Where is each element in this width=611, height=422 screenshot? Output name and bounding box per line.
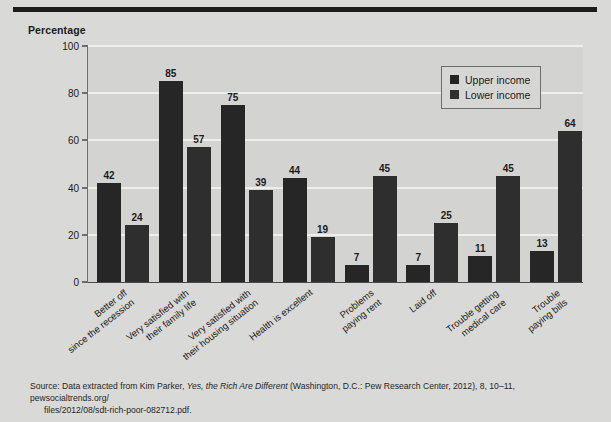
bar-value-label: 7	[345, 252, 369, 263]
bar-upper-income[interactable]: 11	[468, 256, 492, 282]
bar-value-label: 42	[97, 170, 121, 181]
bar-lower-income[interactable]: 25	[434, 223, 458, 282]
bar-value-label: 11	[468, 243, 492, 254]
source-second-line: files/2012/08/sdt-rich-poor-082712.pdf.	[30, 404, 590, 416]
source-title: Yes, the Rich Are Different	[187, 381, 288, 391]
bar-value-label: 13	[530, 238, 554, 249]
bar-lower-income[interactable]: 24	[125, 225, 149, 282]
y-tick-label: 40	[68, 182, 79, 193]
bar-value-label: 39	[249, 177, 273, 188]
bar-upper-income[interactable]: 13	[530, 251, 554, 282]
legend-swatch-icon	[450, 75, 459, 84]
x-axis-label: Better offsince the recession	[58, 287, 136, 355]
x-axis-label: Problemspaying rent	[332, 287, 383, 334]
bar-value-label: 57	[187, 134, 211, 145]
bar-value-label: 44	[283, 165, 307, 176]
x-axis-label-line: Health is excellent	[247, 287, 315, 344]
bar-group: 8557	[156, 46, 212, 282]
bar-lower-income[interactable]: 45	[373, 176, 397, 282]
bar-value-label: 45	[373, 163, 397, 174]
bar-upper-income[interactable]: 7	[345, 265, 369, 282]
x-axis-label-line: Laid off	[407, 287, 439, 315]
legend-label: Lower income	[465, 89, 530, 101]
bar-lower-income[interactable]: 64	[558, 131, 582, 282]
legend-item[interactable]: Lower income	[450, 87, 530, 102]
y-axis-title: Percentage	[28, 24, 86, 36]
bar-upper-income[interactable]: 7	[406, 265, 430, 282]
source-prefix: Source: Data extracted from Kim Parker,	[30, 381, 187, 391]
chart-legend: Upper incomeLower income	[441, 66, 541, 109]
x-axis-labels-group: Better offsince the recessionVery satisf…	[88, 283, 583, 361]
y-tick-label: 0	[73, 277, 79, 288]
bar-upper-income[interactable]: 42	[97, 183, 121, 282]
x-axis-label: Laid off	[407, 287, 439, 315]
bar-value-label: 25	[434, 210, 458, 221]
y-tick-label: 20	[68, 229, 79, 240]
bar-value-label: 45	[496, 163, 520, 174]
bar-upper-income[interactable]: 44	[283, 178, 307, 282]
bar-group: 745	[342, 46, 398, 282]
bar-lower-income[interactable]: 45	[496, 176, 520, 282]
bar-group: 4419	[280, 46, 336, 282]
bar-upper-income[interactable]: 75	[221, 105, 245, 282]
x-axis-label: Trouble gettingmedical care	[444, 287, 508, 344]
source-note: Source: Data extracted from Kim Parker, …	[30, 380, 590, 416]
x-axis-label: Troublepaying bills	[518, 287, 569, 334]
y-tick-label: 60	[68, 135, 79, 146]
y-tick-label: 80	[68, 88, 79, 99]
figure-container: Percentage 020406080100 4224855775394419…	[0, 0, 611, 422]
bar-lower-income[interactable]: 39	[249, 190, 273, 282]
bar-lower-income[interactable]: 57	[187, 147, 211, 282]
legend-label: Upper income	[465, 74, 530, 86]
bar-group: 4224	[94, 46, 150, 282]
legend-swatch-icon	[450, 90, 459, 99]
bar-value-label: 7	[406, 252, 430, 263]
bar-upper-income[interactable]: 85	[159, 81, 183, 282]
bar-value-label: 75	[221, 92, 245, 103]
bar-value-label: 85	[159, 68, 183, 79]
bar-value-label: 19	[311, 224, 335, 235]
x-axis-label: Health is excellent	[247, 287, 315, 344]
top-rule-divider	[13, 7, 597, 12]
bar-lower-income[interactable]: 19	[311, 237, 335, 282]
bar-group: 7539	[218, 46, 274, 282]
legend-item[interactable]: Upper income	[450, 72, 530, 87]
bar-value-label: 64	[558, 118, 582, 129]
bar-value-label: 24	[125, 212, 149, 223]
y-tick-label: 100	[62, 41, 79, 52]
